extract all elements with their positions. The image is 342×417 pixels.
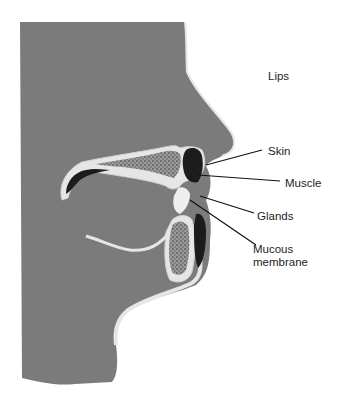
label-lips: Lips [268,70,289,83]
diagram-canvas [0,0,342,417]
lower-bone-marrow [169,222,189,275]
label-skin: Skin [268,145,290,158]
label-mucous: Mucous [253,243,293,256]
head-silhouette [20,22,234,385]
lips-section-diagram: Lips Skin Muscle Glands Mucous membrane [0,0,342,417]
label-muscle: Muscle [285,177,321,190]
label-membrane: membrane [253,256,308,269]
label-glands: Glands [257,210,293,223]
